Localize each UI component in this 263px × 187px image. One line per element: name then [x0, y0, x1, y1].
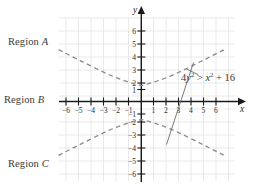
svg-text:4: 4 [132, 53, 136, 62]
svg-text:−4: −4 [87, 106, 95, 115]
svg-text:−6: −6 [62, 106, 70, 115]
svg-text:−3: −3 [128, 131, 136, 140]
region-c-text: Region [8, 158, 42, 169]
svg-text:3: 3 [132, 66, 136, 75]
y-tick-labels: 6 5 4 3 2 1 −1 −2 −3 −4 −5 −6 [128, 27, 136, 179]
graph-figure: −6 −5 −4 −3 −2 −1 1 2 3 4 5 6 6 5 4 3 2 … [0, 0, 263, 187]
region-b-label: Region B [4, 94, 44, 105]
svg-text:2: 2 [164, 106, 168, 115]
svg-text:−4: −4 [128, 144, 136, 153]
axis-arrowheads [138, 6, 246, 105]
svg-text:5: 5 [132, 40, 136, 49]
x-axis-label: x [240, 104, 244, 114]
svg-text:6: 6 [132, 27, 136, 36]
region-a-letter: A [42, 36, 49, 47]
region-a-label: Region A [8, 36, 48, 47]
svg-text:−5: −5 [74, 106, 82, 115]
svg-text:−3: −3 [99, 106, 107, 115]
svg-text:4: 4 [189, 106, 193, 115]
grid-lines [59, 18, 235, 181]
svg-text:−2: −2 [112, 106, 120, 115]
inequality-annotation: 4y2 > x2 + 16 [181, 72, 235, 83]
svg-text:1: 1 [152, 106, 156, 115]
svg-text:6: 6 [214, 106, 218, 115]
y-axis-arrow [138, 6, 145, 14]
svg-text:5: 5 [202, 106, 206, 115]
y-axis-label: y [133, 5, 137, 15]
inequality-relation: > [194, 72, 205, 83]
region-c-label: Region C [8, 158, 49, 169]
svg-text:1: 1 [132, 86, 136, 95]
region-b-text: Region [4, 94, 38, 105]
axis-lines [59, 11, 238, 182]
region-c-letter: C [42, 158, 49, 169]
region-a-text: Region [8, 36, 42, 47]
svg-text:−5: −5 [128, 157, 136, 166]
svg-text:−6: −6 [128, 170, 136, 179]
inequality-constant: + 16 [213, 72, 235, 83]
region-b-letter: B [38, 94, 45, 105]
